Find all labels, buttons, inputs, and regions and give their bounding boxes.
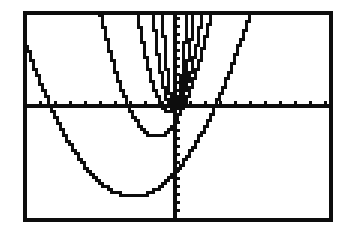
graphing-calculator-screen bbox=[0, 0, 348, 235]
graph-plot-area[interactable] bbox=[0, 0, 348, 235]
parabola-curve bbox=[27, 0, 267, 195]
parabola-curve-group bbox=[27, 0, 267, 195]
